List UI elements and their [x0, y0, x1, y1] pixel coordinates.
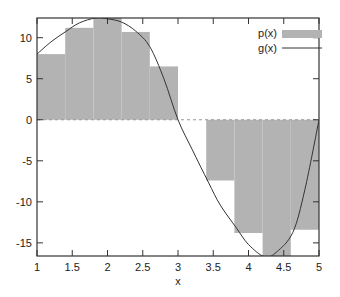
x-tick-label: 4 [245, 261, 251, 273]
bar [206, 120, 234, 181]
x-tick-labels: 11.522.533.544.55 [34, 261, 322, 273]
bar [93, 18, 121, 120]
y-tick-label: 0 [26, 114, 32, 126]
x-tick-label: 5 [316, 261, 322, 273]
y-tick-label: -10 [16, 196, 32, 208]
y-tick-label: -5 [22, 155, 32, 167]
bar [263, 120, 291, 256]
x-tick-label: 2.5 [135, 261, 150, 273]
y-tick-label: 10 [20, 32, 32, 44]
bar [234, 120, 262, 233]
bar [150, 66, 178, 119]
y-tick-label: -15 [16, 237, 32, 249]
y-tick-labels: -15-10-50510 [16, 32, 32, 249]
legend-label-g: g(x) [258, 42, 277, 54]
bar [37, 54, 65, 120]
bar [122, 32, 150, 120]
x-tick-label: 3 [175, 261, 181, 273]
bar [291, 120, 319, 230]
x-tick-label: 2 [104, 261, 110, 273]
x-tick-label: 4.5 [276, 261, 291, 273]
x-tick-label: 1 [34, 261, 40, 273]
y-tick-label: 5 [26, 73, 32, 85]
legend-swatch-p [282, 30, 322, 38]
x-axis-label: x [175, 275, 181, 287]
x-tick-label: 3.5 [206, 261, 221, 273]
legend: p(x) g(x) [258, 27, 322, 54]
legend-label-p: p(x) [258, 27, 277, 39]
x-tick-label: 1.5 [65, 261, 80, 273]
bar [65, 28, 93, 120]
chart-canvas: 11.522.533.544.55 -15-10-50510 x p(x) g(… [0, 0, 340, 297]
